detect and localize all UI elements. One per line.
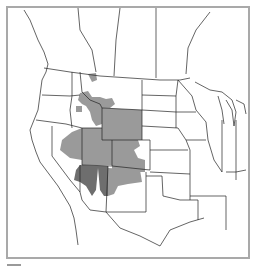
canada-us-border <box>44 68 190 80</box>
great-lakes <box>195 82 246 126</box>
legend-swatch <box>7 264 21 270</box>
range-map <box>0 0 257 273</box>
legend <box>7 264 21 270</box>
pacific-coastline <box>24 10 78 245</box>
